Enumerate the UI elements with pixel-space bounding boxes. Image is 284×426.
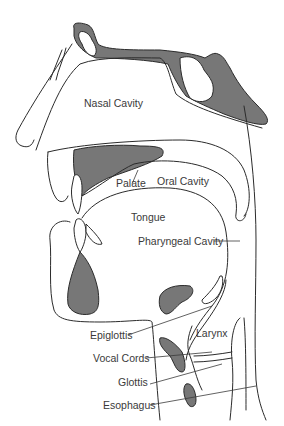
lower-lip-chin-outline <box>50 221 160 420</box>
nose-inner-outline <box>50 48 66 80</box>
label-pharyngeal-cavity: Pharyngeal Cavity <box>138 236 223 247</box>
trachea-back-wall-2 <box>244 318 246 410</box>
vocal-cord-line-lower <box>194 358 232 362</box>
hyoid-bone <box>159 285 193 314</box>
label-tongue: Tongue <box>131 212 165 223</box>
mandible-bone <box>68 252 99 315</box>
label-larynx: Larynx <box>196 328 228 339</box>
upper-incisor <box>71 175 82 214</box>
label-glottis: Glottis <box>118 377 148 388</box>
glottis-leader-line <box>150 364 222 384</box>
label-esophagus: Esophagus <box>103 400 156 411</box>
label-oral-cavity: Oral Cavity <box>157 176 209 187</box>
vocal-tract-diagram: Nasal Cavity Palate Oral Cavity Tongue P… <box>0 0 284 426</box>
skull-base-bone <box>74 23 268 124</box>
label-epiglottis: Epiglottis <box>90 330 133 341</box>
nose-outline <box>16 44 72 147</box>
label-nasal-cavity: Nasal Cavity <box>84 98 143 109</box>
cricoid-cartilage <box>184 384 196 407</box>
label-palate: Palate <box>116 178 146 189</box>
trachea-back-wall <box>230 318 240 420</box>
upper-lip-outline <box>47 152 68 202</box>
lower-incisor <box>74 219 86 252</box>
posterior-pharyngeal-wall <box>244 106 266 420</box>
vocal-cord-line-upper <box>194 352 232 356</box>
lower-tooth-back <box>86 224 102 244</box>
label-vocal-cords: Vocal Cords <box>93 353 150 364</box>
esophagus-leader-line <box>150 386 256 405</box>
